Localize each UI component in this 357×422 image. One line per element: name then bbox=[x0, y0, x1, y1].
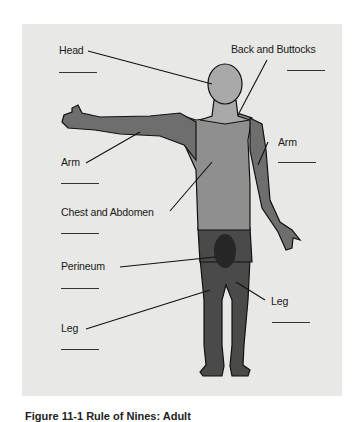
blank-chest-abdomen bbox=[61, 233, 99, 234]
head-region bbox=[208, 64, 242, 104]
perineum-region bbox=[214, 234, 236, 268]
label-head: Head bbox=[59, 44, 84, 56]
body-figure bbox=[0, 0, 357, 422]
label-arm-right: Arm bbox=[278, 136, 297, 148]
label-perineum: Perineum bbox=[61, 260, 105, 272]
label-back-buttocks: Back and Buttocks bbox=[231, 43, 316, 55]
blank-leg-left bbox=[61, 349, 99, 350]
left-arm-region bbox=[62, 105, 196, 160]
label-arm-left: Arm bbox=[61, 156, 80, 168]
figure-caption: Figure 11-1 Rule of Nines: Adult bbox=[25, 410, 191, 422]
legs-region bbox=[200, 258, 250, 376]
label-leg-left: Leg bbox=[61, 322, 78, 334]
blank-leg-right bbox=[272, 322, 310, 323]
label-chest-abdomen: Chest and Abdomen bbox=[61, 206, 154, 218]
label-leg-right: Leg bbox=[271, 295, 288, 307]
blank-perineum bbox=[61, 288, 99, 289]
blank-head bbox=[59, 72, 97, 73]
blank-arm-right bbox=[278, 162, 316, 163]
blank-back-buttocks bbox=[287, 70, 325, 71]
blank-arm-left bbox=[61, 183, 99, 184]
